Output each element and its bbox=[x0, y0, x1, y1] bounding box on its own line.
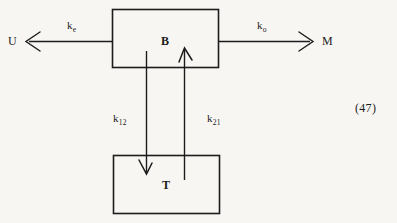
rate-symbol-ko: k bbox=[257, 19, 263, 31]
rate-symbol-ke: k bbox=[67, 19, 73, 31]
rate-label-k21: k21 bbox=[207, 113, 220, 124]
rate-subscript-k12: 12 bbox=[119, 118, 127, 127]
diagram-canvas bbox=[0, 0, 397, 223]
arrowhead-t-to-b-icon bbox=[179, 48, 192, 62]
rate-subscript-k21: 21 bbox=[213, 118, 221, 127]
node-label-t: T bbox=[162, 179, 170, 191]
rate-subscript-ko: o bbox=[263, 25, 267, 34]
node-label-b: B bbox=[161, 35, 169, 47]
compartment-diagram-figure: B T U M ke ko k12 k21 (47) bbox=[0, 0, 397, 223]
terminal-label-u: U bbox=[8, 35, 17, 47]
arrowhead-b-to-t-icon bbox=[139, 160, 152, 174]
rate-symbol-k21: k bbox=[207, 112, 213, 124]
equation-number: (47) bbox=[355, 102, 376, 114]
rate-label-k12: k12 bbox=[113, 113, 126, 124]
rate-symbol-k12: k bbox=[113, 112, 119, 124]
rate-label-ko: ko bbox=[257, 20, 266, 31]
rate-subscript-ke: e bbox=[73, 25, 77, 34]
terminal-label-m: M bbox=[322, 35, 333, 47]
rate-label-ke: ke bbox=[67, 20, 76, 31]
